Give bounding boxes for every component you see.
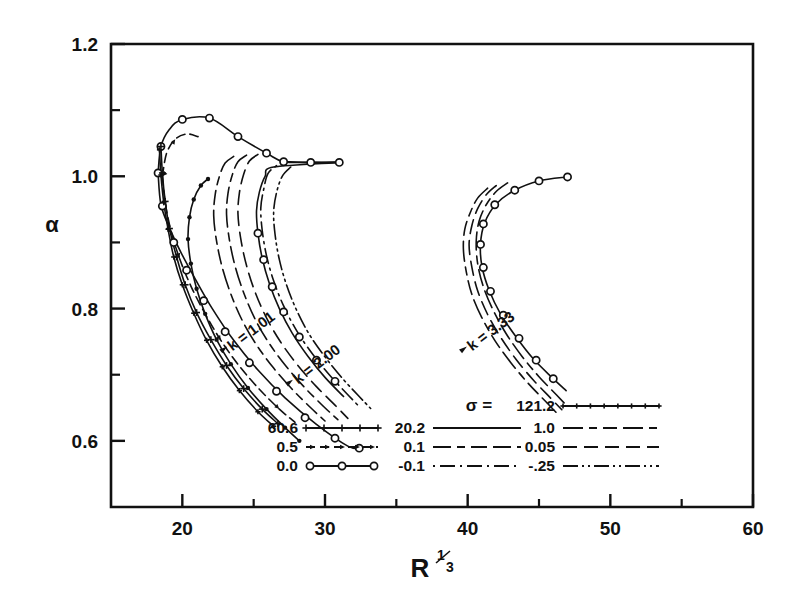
data-point-circle: [269, 283, 276, 290]
curve-annotations: k = 1.01k = 2.00k = 3.33: [219, 308, 517, 388]
x-axis-title: R: [411, 553, 430, 583]
data-point-circle: [280, 158, 287, 165]
x-axis-tick-labels: 2030405060: [172, 518, 764, 539]
data-point-circle: [260, 256, 267, 263]
y-axis-ticks: [111, 44, 125, 441]
data-point-dot: [246, 386, 250, 390]
data-curve: [469, 186, 562, 410]
data-point-circle: [564, 173, 571, 180]
data-point-dot: [264, 407, 268, 411]
legend-label: 0.5: [276, 438, 298, 455]
data-point-circle: [511, 187, 518, 194]
figure-root: 2030405060 0.60.81.01.2 k = 1.01k = 2.00…: [0, 0, 799, 610]
data-point-circle: [246, 359, 253, 366]
x-tick-label: 60: [742, 518, 763, 539]
data-point-circle: [222, 328, 229, 335]
data-point-circle: [170, 239, 177, 246]
data-point-circle: [515, 335, 522, 342]
data-point-circle: [254, 230, 261, 237]
data-point-circle: [487, 288, 494, 295]
data-point-circle: [206, 114, 213, 121]
data-point-dot: [214, 337, 218, 341]
legend-sample: [306, 462, 378, 469]
legend-label: 0.05: [525, 438, 556, 455]
legend-label: 20.2: [395, 419, 425, 436]
data-point-circle: [296, 333, 303, 340]
y-tick-label: 0.6: [72, 431, 98, 452]
data-point-circle: [331, 435, 338, 442]
data-point-circle: [535, 177, 542, 184]
legend-label: 60.6: [268, 419, 299, 436]
data-curve: [274, 167, 371, 408]
data-point-circle: [491, 201, 498, 208]
data-point-circle: [280, 308, 287, 315]
data-point-dot: [203, 312, 207, 316]
data-point-circle: [480, 264, 487, 271]
data-point-plus: [207, 336, 214, 343]
legend-label: -0.1: [398, 457, 425, 474]
legend-label: -.25: [528, 457, 555, 474]
data-curves: [158, 117, 567, 449]
y-axis-tick-labels: 0.60.81.01.2: [72, 34, 98, 452]
legend-label: 1.0: [533, 419, 555, 436]
x-tick-label: 50: [600, 518, 621, 539]
data-point-circle: [533, 357, 540, 364]
data-curve: [158, 173, 361, 449]
legend-label: 121.2: [516, 397, 555, 414]
data-point-circle: [477, 241, 484, 248]
data-point-circle: [179, 116, 186, 123]
legend-heading: σ =: [466, 396, 492, 415]
data-markers: [154, 114, 571, 451]
legend-sample: [302, 424, 381, 431]
legend: σ =121.260.620.21.00.50.10.050.0-0.1-.25: [268, 396, 662, 474]
data-point-dot: [229, 362, 233, 366]
chart-canvas: 2030405060 0.60.81.01.2 k = 1.01k = 2.00…: [0, 0, 799, 610]
x-axis-title-exponent-denominator: 3: [446, 559, 454, 575]
x-tick-label: 30: [314, 518, 335, 539]
data-point-dot: [189, 261, 193, 265]
legend-label: 0.0: [276, 457, 298, 474]
data-point-dot: [199, 183, 203, 187]
data-point-dot: [192, 197, 196, 201]
data-point-circle: [183, 267, 190, 274]
data-point-circle: [480, 220, 487, 227]
data-point-dot: [187, 215, 191, 219]
legend-sample: [560, 403, 661, 408]
y-axis-title: α: [45, 212, 59, 237]
data-point-circle: [200, 297, 207, 304]
data-point-circle: [263, 150, 270, 157]
data-point-circle: [273, 388, 280, 395]
data-point-dot: [206, 177, 210, 181]
data-curve: [160, 150, 274, 426]
data-point-circle: [307, 159, 314, 166]
x-tick-label: 20: [172, 518, 193, 539]
legend-sample: [306, 445, 378, 449]
data-point-circle: [336, 159, 343, 166]
data-point-circle: [331, 378, 338, 385]
plot-frame: [111, 44, 753, 507]
curve-label: k = 3.33: [464, 308, 518, 354]
axis-titles: α R 1 3: [45, 212, 454, 583]
data-point-dot: [186, 237, 190, 241]
data-point-dot: [194, 287, 198, 291]
x-axis-ticks: [182, 494, 753, 507]
x-tick-label: 40: [457, 518, 478, 539]
y-tick-label: 0.8: [72, 299, 98, 320]
data-point-circle: [550, 375, 557, 382]
data-point-circle: [301, 414, 308, 421]
data-curve: [463, 188, 556, 412]
data-point-circle: [234, 133, 241, 140]
y-tick-label: 1.0: [72, 166, 98, 187]
curve-label: k = 1.01: [224, 308, 278, 354]
legend-label: 0.1: [403, 438, 425, 455]
data-curve: [227, 155, 338, 420]
data-curve: [162, 134, 198, 176]
y-tick-label: 1.2: [72, 34, 98, 55]
